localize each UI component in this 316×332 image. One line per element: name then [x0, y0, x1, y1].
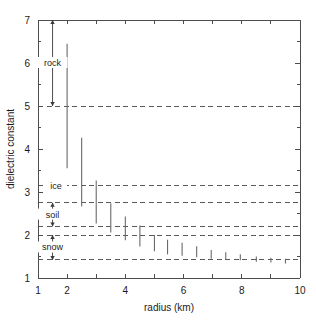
y-tick-label-2: 2: [24, 230, 30, 241]
annotation-label-soil: soil: [46, 210, 60, 220]
y-axis-title: dielectric constant: [5, 109, 16, 189]
chart-canvas: rockicesoilsnow 1246810 1234567 radius (…: [0, 0, 316, 332]
x-tick-label-6: 6: [181, 285, 187, 296]
x-tick-label-1: 1: [35, 285, 41, 296]
x-axis-title: radius (km): [144, 302, 194, 313]
annotation-label-snow: snow: [42, 242, 64, 252]
x-tick-label-8: 8: [239, 285, 245, 296]
x-tick-label-4: 4: [123, 285, 129, 296]
figure-container: rockicesoilsnow 1246810 1234567 radius (…: [0, 0, 316, 332]
y-tick-label-4: 4: [24, 144, 30, 155]
y-tick-label-5: 5: [24, 101, 30, 112]
annotation-label-ice: ice: [50, 181, 62, 191]
chart-background: [0, 0, 316, 332]
y-tick-label-7: 7: [24, 15, 30, 26]
y-tick-label-3: 3: [24, 187, 30, 198]
x-tick-label-2: 2: [64, 285, 70, 296]
y-tick-label-1: 1: [24, 273, 30, 284]
y-tick-label-6: 6: [24, 58, 30, 69]
x-tick-label-10: 10: [294, 285, 306, 296]
annotation-label-rock: rock: [44, 58, 62, 68]
